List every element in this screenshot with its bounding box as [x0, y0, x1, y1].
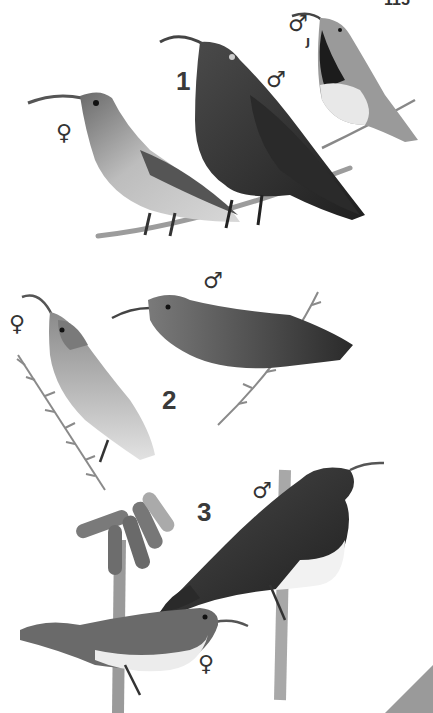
bird-1-juvenile-male	[292, 14, 418, 142]
male-symbol-1: ♂	[266, 69, 286, 91]
plate-number-3: 3	[197, 497, 211, 528]
plate-number-1: 1	[176, 66, 190, 97]
female-symbol-1: ♀	[56, 122, 72, 144]
male-symbol-3: ♂	[252, 480, 272, 502]
field-guide-plate: 115	[0, 0, 433, 713]
plate-number-2: 2	[162, 385, 176, 416]
bird-2-male	[112, 295, 353, 368]
male-symbol-juvenile: ♂	[288, 13, 308, 35]
page-corner-tab	[385, 665, 433, 713]
bird-2-female	[22, 295, 155, 462]
female-symbol-3: ♀	[198, 653, 214, 675]
male-symbol-2: ♂	[203, 270, 223, 292]
bird-illustrations	[0, 0, 433, 713]
female-symbol-2: ♀	[9, 313, 25, 335]
bird-3-male	[160, 463, 384, 620]
juvenile-marker: J	[306, 37, 310, 48]
